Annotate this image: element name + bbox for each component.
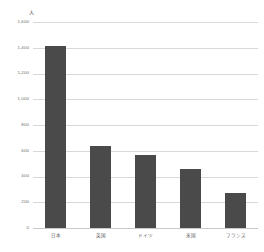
x-axis-tick-label: 日本 bbox=[33, 233, 79, 238]
y-axis-tick-labels: 02004006008001,0001,2001,4001,600 bbox=[0, 0, 264, 252]
y-axis-tick-label: 400 bbox=[8, 174, 29, 178]
y-axis-tick-label: 1,600 bbox=[8, 20, 29, 24]
y-axis-tick-label: 200 bbox=[8, 200, 29, 204]
y-axis-tick-label: 1,200 bbox=[8, 71, 29, 75]
x-axis-line bbox=[33, 228, 258, 229]
y-axis-tick-label: 800 bbox=[8, 123, 29, 127]
x-axis-tick-labels: 日本英国ドイツ米国フランス bbox=[33, 233, 258, 245]
x-axis-tick-label: 米国 bbox=[168, 233, 214, 238]
y-axis-tick-label: 1,400 bbox=[8, 46, 29, 50]
x-axis-tick-label: ドイツ bbox=[123, 233, 169, 238]
x-axis-tick-label: フランス bbox=[213, 233, 259, 238]
y-axis-tick-label: 600 bbox=[8, 149, 29, 153]
x-axis-tick-label: 英国 bbox=[78, 233, 124, 238]
y-axis-tick-label: 0 bbox=[8, 226, 29, 230]
y-axis-tick-label: 1,000 bbox=[8, 97, 29, 101]
bar-chart: 人 02004006008001,0001,2001,4001,600 日本英国… bbox=[0, 0, 264, 252]
